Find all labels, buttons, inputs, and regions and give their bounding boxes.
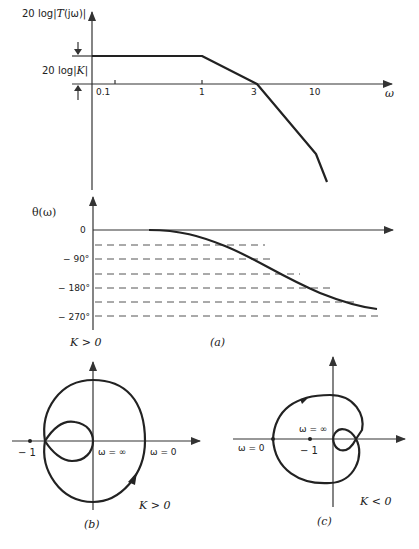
panel-c-caption: (c): [317, 515, 332, 528]
phase-tick-0: 0: [80, 225, 86, 235]
bode-phase-plot: θ(ω) 0 − 90° − 180° − 270° K > 0 (a): [32, 197, 393, 349]
omega-inf-label: ω = ∞: [299, 424, 327, 434]
bode-magnitude-plot: 20 log|T(jω)| 20 log|K| 0.1 1 3 10 ω: [22, 7, 394, 190]
omega-zero-label: ω = 0: [150, 447, 177, 457]
phase-tick-minus180: − 180°: [58, 283, 90, 293]
omega-zero-label: ω = 0: [238, 443, 265, 453]
phase-curve: [149, 230, 377, 309]
panel-b-caption: (b): [84, 518, 100, 531]
panel-a-caption: (a): [210, 336, 225, 349]
minus-one-point: [308, 437, 312, 441]
omega-inf-label: ω = ∞: [98, 447, 126, 457]
direction-arrow-icon: [300, 398, 308, 404]
x-tick-label-3: 3: [251, 87, 257, 97]
phase-tick-minus90: − 90°: [63, 254, 89, 264]
figure-canvas: 20 log|T(jω)| 20 log|K| 0.1 1 3 10 ω θ(ω…: [0, 0, 419, 549]
condition-label: K < 0: [359, 495, 391, 508]
phase-condition-label: K > 0: [69, 336, 101, 349]
minus-one-point: [28, 439, 32, 443]
condition-label: K > 0: [138, 499, 170, 512]
x-tick-label-1: 1: [199, 87, 205, 97]
magnitude-curve: [92, 56, 327, 182]
arrowhead-up-icon: [74, 85, 82, 91]
arrowhead-down-icon: [74, 49, 82, 55]
minus-one-label: − 1: [300, 445, 318, 456]
phase-y-label: θ(ω): [32, 206, 56, 219]
x-tick-label-10: 10: [309, 87, 321, 97]
nyquist-c-inner-loop: [333, 429, 356, 450]
nyquist-plot-c: ω = ∞ − 1 ω = 0 K < 0 (c): [233, 357, 405, 528]
minus-one-label: − 1: [18, 447, 36, 458]
nyquist-plot-b: − 1 ω = ∞ ω = 0 K > 0 (b): [12, 362, 200, 531]
gain-label: 20 log|K|: [42, 64, 88, 77]
x-tick-label-0.1: 0.1: [96, 87, 110, 97]
magnitude-y-label: 20 log|T(jω)|: [22, 7, 86, 20]
phase-tick-minus270: − 270°: [58, 312, 90, 322]
omega-axis-label: ω: [385, 87, 394, 100]
